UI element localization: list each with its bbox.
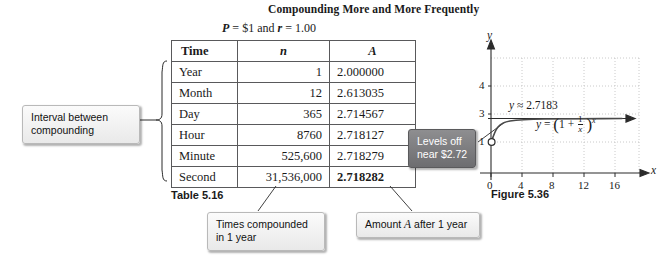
y-tick-4: 4 <box>479 79 485 91</box>
cell-n: 365 <box>238 104 330 125</box>
conjunction: and <box>257 21 274 35</box>
cell-a: 2.613035 <box>330 83 416 104</box>
x-tick-16: 16 <box>609 179 620 191</box>
cell-n: 1 <box>238 62 330 83</box>
column-header-a: A <box>330 41 416 62</box>
cell-time: Second <box>172 167 238 188</box>
cell-n: 12 <box>238 83 330 104</box>
callout-line-2: compounding <box>31 124 131 137</box>
table-body: Year 1 2.000000 Month 12 2.613035 Day 36… <box>172 62 416 188</box>
graph-y-ticks <box>488 86 491 142</box>
r-value: 1.00 <box>295 21 316 35</box>
table-row: Day 365 2.714567 <box>172 104 416 125</box>
parameters-line: P = $1 and r = 1.00 <box>222 21 316 36</box>
callout-line-2: in 1 year <box>216 231 316 244</box>
table-caption: Table 5.16 <box>171 189 223 201</box>
x-tick-0: 0 <box>487 179 493 191</box>
cell-a: 2.718282 <box>330 167 416 188</box>
asymptote-label: y ≈ 2.7183 <box>509 99 558 111</box>
equals-sign-1: = <box>232 21 239 35</box>
graph-x-ticks <box>491 173 615 177</box>
p-value: $1 <box>242 21 254 35</box>
cell-a: 2.000000 <box>330 62 416 83</box>
column-header-time: Time <box>172 41 238 62</box>
cell-n: 31,536,000 <box>238 167 330 188</box>
x-tick-12: 12 <box>578 179 589 191</box>
figure-root: Compounding More and More Frequently P =… <box>0 0 663 258</box>
p-symbol: P <box>222 21 229 35</box>
y-tick-1: 1 <box>479 135 485 147</box>
row-span-brace <box>140 61 167 181</box>
cell-time: Minute <box>172 146 238 167</box>
table-header-row: Time n A <box>172 41 416 62</box>
cell-n: 525,600 <box>238 146 330 167</box>
callout-text-pre: Amount <box>365 218 404 230</box>
cell-time: Year <box>172 62 238 83</box>
cell-time: Day <box>172 104 238 125</box>
cell-a: 2.718127 <box>330 125 416 146</box>
y-axis-label: y <box>487 29 492 41</box>
x-tick-4: 4 <box>518 179 524 191</box>
compounding-table: Time n A Year 1 2.000000 Month 12 2.6130… <box>171 40 416 188</box>
cell-n: 8760 <box>238 125 330 146</box>
callout-interval-between-compounding[interactable]: Interval between compounding <box>22 105 140 144</box>
callout-line-1: Interval between <box>31 111 131 124</box>
callout-line-1: Times compounded <box>216 218 316 231</box>
cell-a: 2.718279 <box>330 146 416 167</box>
graph-y-axis <box>488 40 495 180</box>
open-circle-marker <box>488 139 495 146</box>
leader-line-amount <box>390 186 412 211</box>
r-symbol: r <box>277 21 282 35</box>
column-header-n: n <box>238 41 330 62</box>
callout-line-2: near $2.72 <box>417 148 467 161</box>
table-row: Hour 8760 2.718127 <box>172 125 416 146</box>
leader-line-times <box>258 186 276 211</box>
callout-line-1: Levels off <box>417 135 467 148</box>
callout-times-compounded[interactable]: Times compounded in 1 year <box>207 212 325 251</box>
table-row: Minute 525,600 2.718279 <box>172 146 416 167</box>
figure-title: Compounding More and More Frequently <box>268 3 479 15</box>
equals-sign-2: = <box>285 21 292 35</box>
x-tick-8: 8 <box>549 179 555 191</box>
callout-amount-after-one-year[interactable]: Amount A after 1 year <box>356 212 480 238</box>
graph-group <box>480 40 649 180</box>
y-tick-3: 3 <box>479 107 485 119</box>
cell-time: Month <box>172 83 238 104</box>
curve-equation-label: y = (1 + 1x )x <box>536 115 596 135</box>
x-axis-label: x <box>651 164 656 176</box>
table-row: Second 31,536,000 2.718282 <box>172 167 416 188</box>
callout-text-post: after 1 year <box>411 218 467 230</box>
cell-a: 2.714567 <box>330 104 416 125</box>
callout-levels-off[interactable]: Levels off near $2.72 <box>408 129 476 168</box>
table-row: Month 12 2.613035 <box>172 83 416 104</box>
graph-x-axis <box>480 170 649 177</box>
data-table-wrapper: Time n A Year 1 2.000000 Month 12 2.6130… <box>171 40 416 188</box>
table-row: Year 1 2.000000 <box>172 62 416 83</box>
cell-time: Hour <box>172 125 238 146</box>
